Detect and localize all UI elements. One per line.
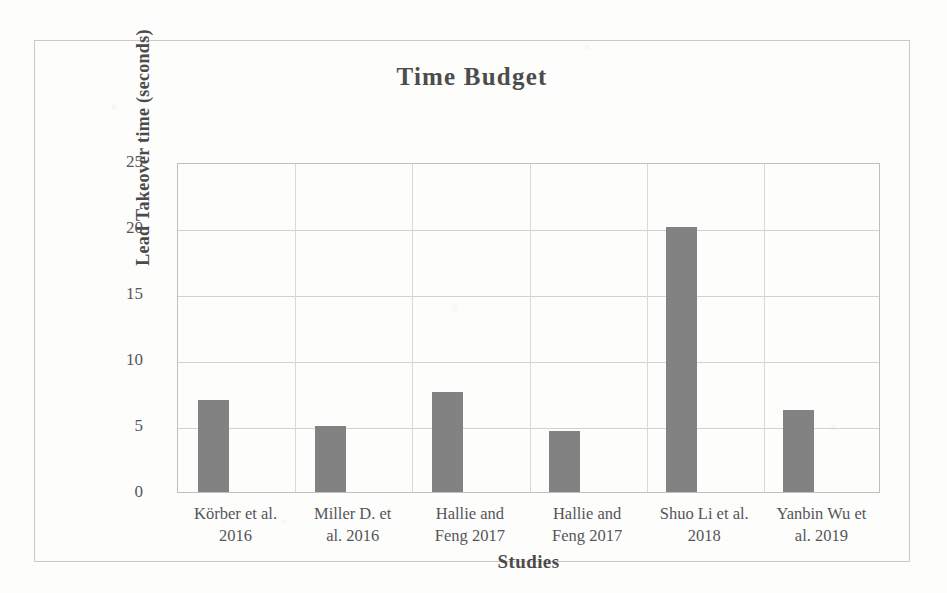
category-separator-4: [647, 164, 648, 492]
x-tick-label-line: Feng 2017: [411, 525, 528, 547]
category-separator-1: [295, 164, 296, 492]
bar-2: [315, 426, 346, 492]
gridline-y-20: [178, 230, 879, 231]
category-separator-2: [412, 164, 413, 492]
y-tick-label-15: 15: [99, 284, 143, 304]
gridline-y-15: [178, 296, 879, 297]
x-tick-label-6: Yanbin Wu etal. 2019: [763, 503, 880, 547]
x-tick-label-line: Körber et al.: [177, 503, 294, 525]
x-tick-label-line: al. 2019: [763, 525, 880, 547]
x-tick-label-4: Hallie andFeng 2017: [529, 503, 646, 547]
bar-6: [783, 410, 814, 492]
x-tick-label-line: Miller D. et: [294, 503, 411, 525]
chart-title: Time Budget: [35, 63, 909, 91]
x-tick-label-line: Hallie and: [411, 503, 528, 525]
x-tick-label-5: Shuo Li et al.2018: [646, 503, 763, 547]
bar-4: [549, 431, 580, 492]
y-tick-label-20: 20: [99, 218, 143, 238]
gridline-y-10: [178, 362, 879, 363]
x-tick-label-line: 2018: [646, 525, 763, 547]
y-tick-label-10: 10: [99, 350, 143, 370]
x-tick-label-line: Feng 2017: [529, 525, 646, 547]
bar-1: [198, 400, 229, 492]
gridline-y-5: [178, 428, 879, 429]
category-separator-3: [530, 164, 531, 492]
x-tick-label-line: Shuo Li et al.: [646, 503, 763, 525]
x-tick-label-line: 2016: [177, 525, 294, 547]
x-tick-label-2: Miller D. etal. 2016: [294, 503, 411, 547]
x-tick-label-line: Hallie and: [529, 503, 646, 525]
chart-figure-frame: Time Budget Lead Takeover time (seconds)…: [34, 40, 910, 562]
category-separator-5: [764, 164, 765, 492]
y-tick-label-25: 25: [99, 152, 143, 172]
x-tick-label-line: al. 2016: [294, 525, 411, 547]
bar-3: [432, 392, 463, 492]
x-axis-title: Studies: [177, 551, 880, 573]
plot-area: [177, 163, 880, 493]
bar-5: [666, 227, 697, 492]
x-tick-label-3: Hallie andFeng 2017: [411, 503, 528, 547]
x-tick-label-line: Yanbin Wu et: [763, 503, 880, 525]
y-tick-label-5: 5: [99, 416, 143, 436]
x-tick-label-1: Körber et al.2016: [177, 503, 294, 547]
y-tick-label-0: 0: [99, 482, 143, 502]
